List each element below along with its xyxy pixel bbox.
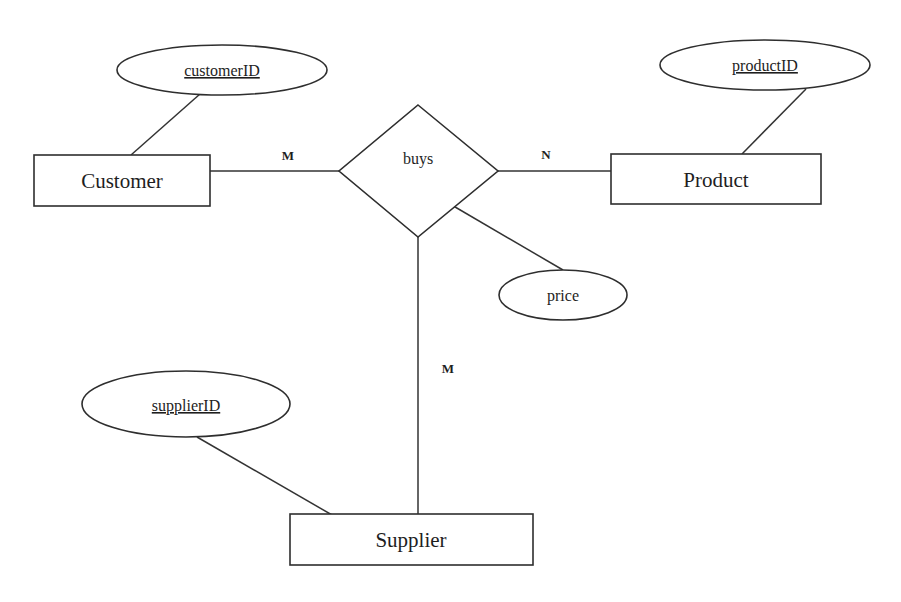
cardinality-customer-buys: M [282, 148, 294, 163]
attribute-label-price: price [547, 287, 579, 305]
entity-label-customer: Customer [81, 169, 163, 193]
connector-buys-price [450, 204, 563, 270]
attribute-customerID[interactable]: customerID [117, 45, 327, 95]
entity-customer[interactable]: Customer [34, 155, 210, 206]
relationship-buys[interactable]: buys [339, 105, 498, 237]
connector-productID-product [742, 89, 806, 154]
attribute-productID[interactable]: productID [660, 40, 870, 90]
cardinality-product-buys: N [541, 147, 551, 162]
attribute-label-customerID: customerID [184, 62, 260, 79]
connector-supplierID-supplier [197, 437, 339, 519]
attribute-supplierID[interactable]: supplierID [82, 371, 290, 437]
attribute-label-supplierID: supplierID [152, 397, 220, 415]
entity-label-product: Product [683, 168, 748, 192]
attribute-label-productID: productID [732, 57, 798, 75]
er-diagram-canvas: customerID productID price supplierID Cu… [0, 0, 901, 602]
entity-supplier[interactable]: Supplier [290, 514, 533, 565]
connector-customerID-customer [131, 94, 200, 155]
entity-label-supplier: Supplier [375, 528, 446, 552]
relationship-diamond [339, 105, 498, 237]
relationship-label-buys: buys [403, 150, 433, 168]
cardinality-supplier-buys: M [442, 361, 454, 376]
attribute-price[interactable]: price [499, 270, 627, 320]
entity-product[interactable]: Product [611, 154, 821, 204]
